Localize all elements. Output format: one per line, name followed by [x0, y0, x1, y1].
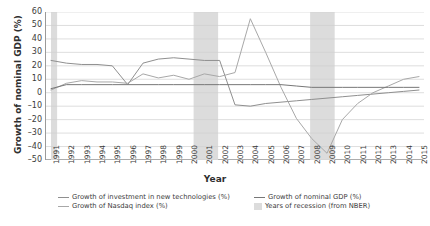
- recession-band: [194, 12, 219, 160]
- chart-legend: Growth of investment in new technologies…: [58, 193, 418, 217]
- x-tick-label: 1995: [114, 145, 122, 164]
- y-axis-title: Growth of nominal GDP (%): [2, 14, 16, 154]
- x-tick-label: 2015: [421, 145, 429, 164]
- x-tick-label: 1992: [68, 145, 76, 164]
- chart-canvas: [46, 12, 424, 160]
- legend-item[interactable]: Years of recession (from NBER): [254, 202, 370, 210]
- x-tick-label: 1998: [160, 145, 168, 164]
- x-tick-label: 2006: [283, 145, 291, 164]
- x-tick-label: 2012: [375, 145, 383, 164]
- x-tick-label: 2014: [406, 145, 414, 164]
- x-tick-label: 2009: [329, 145, 337, 164]
- x-tick-label: 1993: [84, 145, 92, 164]
- x-tick-label: 2008: [314, 145, 322, 164]
- x-tick-label: 2000: [191, 145, 199, 164]
- series-line: [51, 85, 419, 89]
- y-tick-label: 60: [16, 8, 42, 16]
- y-tick-label: 50: [16, 21, 42, 29]
- chart-figure: Growth of nominal GDP (%) 6050403020100–…: [0, 0, 430, 226]
- y-axis-tick-labels: 6050403020100–10–20–30–40–50: [16, 12, 42, 160]
- x-tick-label: 1997: [145, 145, 153, 164]
- y-tick-label: –50: [16, 156, 42, 164]
- x-tick-label: 1996: [130, 145, 138, 164]
- legend-item[interactable]: Growth of nominal GDP (%): [254, 193, 362, 201]
- y-tick-label: –30: [16, 129, 42, 137]
- x-tick-label: 2004: [252, 145, 260, 164]
- legend-label: Growth of nominal GDP (%): [268, 193, 362, 201]
- y-tick-label: 0: [16, 89, 42, 97]
- x-tick-label: 2005: [268, 145, 276, 164]
- x-tick-label: 2011: [360, 145, 368, 164]
- plot-area: [45, 12, 423, 160]
- y-tick-label: 10: [16, 75, 42, 83]
- y-tick-label: –40: [16, 143, 42, 151]
- x-tick-label: 2007: [298, 145, 306, 164]
- x-tick-label: 1999: [176, 145, 184, 164]
- y-tick-label: –20: [16, 116, 42, 124]
- x-tick-label: 2013: [390, 145, 398, 164]
- y-tick-label: 40: [16, 35, 42, 43]
- y-tick-label: 20: [16, 62, 42, 70]
- y-tick-label: 30: [16, 48, 42, 56]
- x-tick-label: 1991: [53, 145, 61, 164]
- x-tick-label: 2002: [222, 145, 230, 164]
- legend-swatch-line: [58, 206, 69, 207]
- legend-swatch-line: [58, 197, 69, 198]
- x-tick-label: 2001: [206, 145, 214, 164]
- x-tick-label: 1994: [99, 145, 107, 164]
- recession-band: [51, 12, 57, 160]
- y-tick-label: –10: [16, 102, 42, 110]
- legend-swatch-box: [254, 203, 262, 210]
- legend-swatch-line: [254, 197, 265, 198]
- legend-item[interactable]: Growth of investment in new technologies…: [58, 193, 230, 201]
- x-tick-label: 2010: [344, 145, 352, 164]
- recession-band: [310, 12, 335, 160]
- legend-label: Years of recession (from NBER): [265, 202, 370, 210]
- legend-label: Growth of investment in new technologies…: [72, 193, 230, 201]
- legend-label: Growth of Nasdaq index (%): [72, 202, 168, 210]
- x-tick-label: 2003: [237, 145, 245, 164]
- legend-item[interactable]: Growth of Nasdaq index (%): [58, 202, 168, 210]
- x-axis-title: Year: [0, 174, 430, 184]
